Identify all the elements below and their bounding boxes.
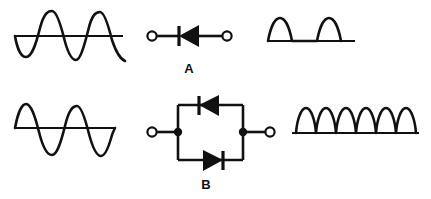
input-waveform-a (15, 11, 125, 61)
output-waveform-b (292, 108, 419, 133)
input-waveform-b (15, 104, 115, 156)
label-b: B (201, 177, 210, 192)
rectifier-diagram: A (0, 0, 431, 199)
terminal-right-b (265, 127, 274, 136)
input-b-sine (15, 104, 115, 156)
output-waveform-a (268, 18, 355, 41)
terminal-right-a (222, 31, 231, 40)
circuit-b-antiparallel-pair (147, 95, 274, 171)
row-b: B (15, 95, 419, 192)
circuit-a-single-diode (147, 25, 231, 47)
output-a-humps (268, 18, 341, 41)
terminal-left-b (147, 127, 156, 136)
row-a: A (15, 11, 355, 76)
label-a: A (184, 61, 194, 76)
diode-a-anode-triangle (179, 25, 199, 47)
output-b-humps (296, 108, 416, 133)
terminal-left-a (147, 31, 156, 40)
diode-b-top-anode-triangle (199, 95, 219, 116)
diode-b-bottom-anode-triangle (203, 150, 223, 171)
diagram-canvas: A (0, 0, 431, 199)
